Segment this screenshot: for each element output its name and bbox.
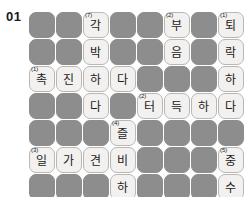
- crossword-block-cell: [109, 92, 136, 119]
- crossword-block-cell: [136, 173, 163, 197]
- crossword-letter-cell[interactable]: 다: [109, 65, 136, 92]
- crossword-letter-cell[interactable]: (2)부: [163, 11, 190, 38]
- cell-face: [137, 174, 163, 198]
- cell-letter: 중: [217, 146, 244, 173]
- crossword-letter-cell[interactable]: (5)중: [217, 146, 244, 173]
- crossword-block-cell: [190, 119, 217, 146]
- cell-face: [29, 39, 55, 65]
- crossword-block-cell: [163, 146, 190, 173]
- cell-face: [191, 66, 217, 92]
- cell-letter: 하: [82, 65, 109, 92]
- crossword-letter-cell[interactable]: 다: [82, 92, 109, 119]
- cell-face: [164, 174, 190, 198]
- cell-face: [56, 93, 82, 119]
- cell-letter: 다: [217, 92, 244, 119]
- cell-face: [137, 39, 163, 65]
- crossword-letter-cell[interactable]: 견: [82, 146, 109, 173]
- crossword-block-cell: [190, 146, 217, 173]
- cell-letter: 하: [190, 92, 217, 119]
- cell-face: [83, 174, 109, 198]
- crossword-letter-cell[interactable]: 다: [217, 92, 244, 119]
- cell-face: [110, 39, 136, 65]
- cell-face: [110, 93, 136, 119]
- crossword-letter-cell[interactable]: (3)일: [28, 146, 55, 173]
- crossword-block-cell: [28, 11, 55, 38]
- crossword-block-cell: [55, 92, 82, 119]
- crossword-block-cell: [109, 38, 136, 65]
- cell-face: [29, 12, 55, 38]
- crossword-letter-cell[interactable]: (4)즐: [109, 119, 136, 146]
- crossword-block-cell: [163, 119, 190, 146]
- crossword-block-cell: [163, 173, 190, 197]
- cell-letter: 견: [82, 146, 109, 173]
- cell-letter: 박: [82, 38, 109, 65]
- cell-face: [56, 12, 82, 38]
- crossword-letter-cell[interactable]: (1)퇴: [217, 11, 244, 38]
- crossword-letter-cell[interactable]: 수: [217, 173, 244, 197]
- crossword-letter-cell[interactable]: 하: [82, 65, 109, 92]
- cell-face: [56, 39, 82, 65]
- cell-letter: 퇴: [217, 11, 244, 38]
- crossword-letter-cell[interactable]: 비: [109, 146, 136, 173]
- crossword-block-cell: [28, 173, 55, 197]
- crossword-block-cell: [190, 173, 217, 197]
- crossword-letter-cell[interactable]: 득: [163, 92, 190, 119]
- cell-face: [218, 120, 244, 146]
- cell-face: [29, 93, 55, 119]
- cell-letter: 촉: [28, 65, 55, 92]
- cell-letter: 수: [217, 173, 244, 197]
- crossword-block-cell: [190, 11, 217, 38]
- crossword-block-cell: [55, 38, 82, 65]
- cell-letter: 다: [82, 92, 109, 119]
- cell-face: [56, 174, 82, 198]
- crossword-letter-cell[interactable]: 박: [82, 38, 109, 65]
- crossword-block-cell: [28, 119, 55, 146]
- crossword-block-cell: [28, 92, 55, 119]
- cell-face: [137, 120, 163, 146]
- cell-face: [137, 66, 163, 92]
- crossword-block-cell: [136, 38, 163, 65]
- crossword-block-cell: [55, 11, 82, 38]
- cell-face: [110, 12, 136, 38]
- cell-letter: 하: [217, 65, 244, 92]
- crossword-block-cell: [82, 119, 109, 146]
- cell-face: [29, 174, 55, 198]
- crossword-letter-cell[interactable]: 하: [109, 173, 136, 197]
- crossword-letter-cell[interactable]: 가: [55, 146, 82, 173]
- crossword-letter-cell[interactable]: (1)촉: [28, 65, 55, 92]
- cell-letter: 하: [109, 173, 136, 197]
- crossword-block-cell: [55, 173, 82, 197]
- cell-face: [56, 120, 82, 146]
- crossword-letter-cell[interactable]: 하: [217, 65, 244, 92]
- crossword-block-cell: [136, 146, 163, 173]
- crossword-letter-cell[interactable]: (7)각: [82, 11, 109, 38]
- cell-letter: 부: [163, 11, 190, 38]
- crossword-block-cell: [190, 38, 217, 65]
- crossword-block-cell: [190, 65, 217, 92]
- crossword-block-cell: [109, 11, 136, 38]
- crossword-block-cell: [28, 38, 55, 65]
- cell-letter: 터: [136, 92, 163, 119]
- cell-face: [191, 12, 217, 38]
- cell-face: [164, 66, 190, 92]
- cell-face: [191, 174, 217, 198]
- cell-letter: 진: [55, 65, 82, 92]
- puzzle-number: 01: [6, 9, 21, 24]
- cell-letter: 일: [28, 146, 55, 173]
- cell-letter: 락: [217, 38, 244, 65]
- crossword-letter-cell[interactable]: 하: [190, 92, 217, 119]
- cell-letter: 득: [163, 92, 190, 119]
- cell-face: [191, 120, 217, 146]
- crossword-letter-cell[interactable]: 진: [55, 65, 82, 92]
- crossword-block-cell: [136, 11, 163, 38]
- crossword-letter-cell[interactable]: 락: [217, 38, 244, 65]
- crossword-block-cell: [217, 119, 244, 146]
- crossword-block-cell: [136, 65, 163, 92]
- crossword-block-cell: [82, 173, 109, 197]
- cell-letter: 즐: [109, 119, 136, 146]
- cell-letter: 비: [109, 146, 136, 173]
- cell-letter: 각: [82, 11, 109, 38]
- cell-face: [29, 120, 55, 146]
- crossword-letter-cell[interactable]: 음: [163, 38, 190, 65]
- crossword-letter-cell[interactable]: (2)터: [136, 92, 163, 119]
